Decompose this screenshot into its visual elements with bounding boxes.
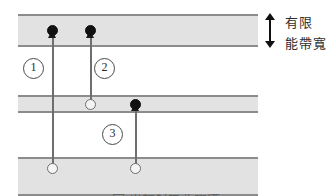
transition-label-2: 2 bbox=[94, 58, 115, 79]
electron-dot bbox=[85, 25, 96, 36]
transition-label-1: 1 bbox=[23, 58, 44, 79]
figure-caption: 圖 光輻射吸收躍遷 bbox=[0, 190, 332, 196]
double-arrow-vertical-icon bbox=[264, 13, 276, 48]
electron-dot bbox=[47, 25, 58, 36]
figure-canvas: 1 2 3 有限 能帶寬 圖 光輻射吸收躍遷 bbox=[0, 0, 332, 196]
bandwidth-label-line2: 能帶寬 bbox=[285, 33, 327, 52]
transition-line-3 bbox=[135, 106, 137, 168]
hole-circle bbox=[85, 99, 96, 110]
bandwidth-label-line1: 有限 bbox=[285, 12, 313, 31]
arrow-shaft bbox=[269, 18, 271, 43]
electron-dot bbox=[130, 99, 141, 110]
arrow-down-head-icon bbox=[265, 41, 275, 48]
hole-circle bbox=[47, 163, 58, 174]
transition-line-1 bbox=[52, 33, 54, 168]
transition-label-3: 3 bbox=[102, 124, 123, 145]
transition-line-2 bbox=[90, 33, 92, 104]
hole-circle bbox=[130, 163, 141, 174]
